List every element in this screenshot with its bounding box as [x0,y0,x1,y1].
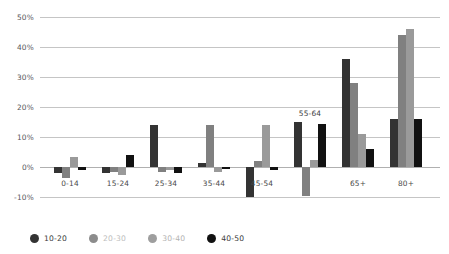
y-axis-tick-label: 10% [17,133,34,142]
bar[interactable] [366,149,374,167]
x-axis-category-label: 55-64 [299,109,321,118]
gridline [40,197,440,198]
bar-group [390,17,422,197]
x-axis-category-label: 0-14 [61,179,79,188]
legend-label: 20-30 [103,234,126,243]
bar[interactable] [310,160,318,168]
bar-chart: 50%40%30%20%10%0%-10% 10-2020-3030-4040-… [0,0,449,254]
bar[interactable] [270,167,278,170]
bar[interactable] [350,83,358,167]
gridline [40,107,440,108]
bar[interactable] [398,35,406,167]
bar-group [294,17,326,197]
bar[interactable] [102,167,110,173]
bar[interactable] [62,167,70,178]
x-axis-category-label: 25-34 [155,179,177,188]
bar[interactable] [214,167,222,172]
gridline [40,77,440,78]
bar-group [246,17,278,197]
plot-area [40,17,440,197]
bar[interactable] [150,125,158,167]
bar[interactable] [78,167,86,170]
x-axis-category-label: 45-54 [251,179,273,188]
bar[interactable] [70,157,78,168]
bar[interactable] [262,125,270,167]
bar[interactable] [118,167,126,175]
y-axis-tick-label: 0% [22,163,34,172]
legend-swatch-icon [207,234,216,243]
bar[interactable] [254,161,262,167]
bar[interactable] [294,122,302,167]
legend-item[interactable]: 40-50 [207,234,244,243]
legend-label: 30-40 [162,234,185,243]
x-axis-category-label: 35-44 [203,179,225,188]
legend-label: 10-20 [44,234,67,243]
x-axis-category-label: 15-24 [107,179,129,188]
gridline [40,167,440,168]
bar[interactable] [206,125,214,167]
bar[interactable] [302,167,310,196]
bar[interactable] [126,155,134,167]
legend-swatch-icon [89,234,98,243]
x-axis-category-label: 65+ [350,179,366,188]
legend-item[interactable]: 10-20 [30,234,67,243]
y-axis-tick-label: 40% [17,43,34,52]
bar-group [198,17,230,197]
legend-swatch-icon [148,234,157,243]
chart-legend: 10-2020-3030-4040-50 [30,234,266,243]
bar[interactable] [342,59,350,167]
bar[interactable] [390,119,398,167]
y-axis-tick-label: 20% [17,103,34,112]
bar[interactable] [174,167,182,173]
bar[interactable] [318,124,326,168]
y-axis-tick-label: 30% [17,73,34,82]
legend-item[interactable]: 20-30 [89,234,126,243]
bar-group [150,17,182,197]
bar[interactable] [110,167,118,172]
bar[interactable] [54,167,62,173]
bar[interactable] [414,119,422,167]
legend-swatch-icon [30,234,39,243]
bar[interactable] [166,167,174,170]
gridline [40,47,440,48]
legend-item[interactable]: 30-40 [148,234,185,243]
bar[interactable] [222,167,230,169]
x-axis-category-label: 80+ [398,179,414,188]
bar[interactable] [406,29,414,167]
y-axis-labels: 50%40%30%20%10%0%-10% [0,17,36,197]
gridline [40,137,440,138]
gridline [40,17,440,18]
legend-label: 40-50 [221,234,244,243]
bar-group [342,17,374,197]
bar[interactable] [158,167,166,172]
y-axis-tick-label: -10% [14,193,34,202]
bar-group [54,17,86,197]
bar-group [102,17,134,197]
bar[interactable] [198,163,206,168]
y-axis-tick-label: 50% [17,13,34,22]
bar[interactable] [358,134,366,167]
